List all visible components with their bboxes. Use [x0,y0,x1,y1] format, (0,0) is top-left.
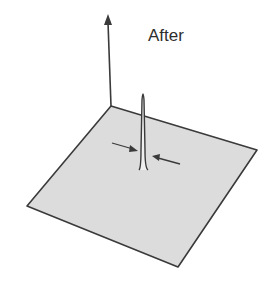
axis-arrowhead-icon [104,14,112,25]
after-label: After [148,26,184,46]
after-diagram [0,0,280,293]
vertical-axis [108,22,111,106]
diagram-container: After [0,0,280,293]
